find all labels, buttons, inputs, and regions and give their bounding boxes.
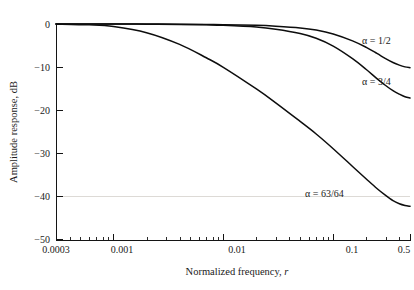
x-tick-label-0-5: 0.5 — [398, 244, 411, 255]
x-tick-marks — [57, 234, 411, 241]
x-axis-title: Normalized frequency, r — [186, 266, 290, 277]
y-tick-label-0: 0 — [45, 19, 50, 30]
y-axis-title: Amplitude response, dB — [8, 81, 19, 183]
y-tick-label-minus40: −40 — [34, 191, 50, 202]
x-tick-label-0-01: 0.01 — [228, 244, 246, 255]
x-tick-label-0-1: 0.1 — [346, 244, 359, 255]
y-tick-label-minus20: −20 — [34, 105, 50, 116]
x-axis-title-main: Normalized frequency, — [186, 266, 285, 277]
y-tick-label-minus10: −10 — [34, 62, 50, 73]
chart-figure: 0 −10 −20 −30 −40 −50 0.0003 0.001 0.01 … — [0, 0, 414, 290]
amplitude-response-plot: 0 −10 −20 −30 −40 −50 0.0003 0.001 0.01 … — [0, 0, 414, 290]
y-tick-label-minus30: −30 — [34, 148, 50, 159]
curve-alpha-63-64 — [56, 24, 410, 206]
label-alpha-63-64: α = 63/64 — [305, 188, 344, 199]
label-alpha-3-4: α = 3/4 — [362, 76, 391, 87]
x-tick-label-0-001: 0.001 — [111, 244, 134, 255]
label-alpha-1-2: α = 1/2 — [362, 35, 391, 46]
x-tick-label-0-0003: 0.0003 — [42, 244, 70, 255]
curve-alpha-3-4 — [56, 24, 410, 98]
x-axis-title-var: r — [284, 266, 289, 277]
